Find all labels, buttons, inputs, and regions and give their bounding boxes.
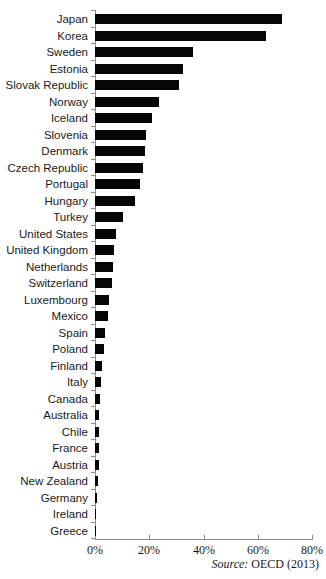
x-tick-label: 80% [301,543,323,558]
y-axis-tick [91,109,95,110]
y-axis-tick [91,60,95,61]
y-axis-tick [91,274,95,275]
bar [95,80,179,90]
y-axis-tick [91,241,95,242]
bar [95,97,159,107]
x-tick-label: 0% [87,543,103,558]
country-label: Slovenia [0,127,88,144]
bar-row: Iceland [0,110,326,127]
country-label: Switzerland [0,275,88,292]
x-axis-tick [204,535,205,539]
bar [95,212,123,222]
bar-row: Slovak Republic [0,77,326,94]
bar-row: Ireland [0,506,326,523]
bar [95,31,266,41]
country-label: New Zealand [0,473,88,490]
y-axis-tick [91,76,95,77]
bar-row: Slovenia [0,127,326,144]
country-label: Spain [0,325,88,342]
source-text: OECD (2013) [251,557,319,571]
country-label: Netherlands [0,259,88,276]
y-axis-tick [91,27,95,28]
bar-row: Poland [0,341,326,358]
y-axis-tick [91,307,95,308]
country-label: Iceland [0,110,88,127]
bar [95,295,109,305]
bar [95,245,114,255]
bar-row: United Kingdom [0,242,326,259]
bar-row: Norway [0,94,326,111]
source-note: Source: OECD (2013) [211,557,319,572]
y-axis-tick [91,373,95,374]
y-axis-tick [91,175,95,176]
bar [95,328,105,338]
y-axis-tick [91,390,95,391]
x-axis-tick [149,535,150,539]
bar-row: Australia [0,407,326,424]
country-label: Finland [0,358,88,375]
x-tick-label: 60% [247,543,269,558]
bar-row: Denmark [0,143,326,160]
country-label: Estonia [0,61,88,78]
y-axis-tick [91,340,95,341]
bar-row: New Zealand [0,473,326,490]
bar-row: Sweden [0,44,326,61]
bar [95,179,140,189]
y-axis-tick [91,43,95,44]
country-label: Turkey [0,209,88,226]
country-label: Czech Republic [0,160,88,177]
bar [95,278,112,288]
country-label: Chile [0,424,88,441]
bar [95,47,193,57]
y-axis-tick [91,324,95,325]
y-axis-tick [91,10,95,11]
bar-row: Czech Republic [0,160,326,177]
x-axis-tick [312,535,313,539]
bar [95,460,99,470]
bar-row: Netherlands [0,259,326,276]
bar [95,113,152,123]
bar [95,130,146,140]
y-axis-tick [91,126,95,127]
bar [95,196,135,206]
bar [95,377,101,387]
y-axis-tick [91,225,95,226]
y-axis-tick [91,258,95,259]
y-axis-tick [91,142,95,143]
country-label: Denmark [0,143,88,160]
bar [95,410,99,420]
y-axis-tick [91,406,95,407]
y-axis-tick [91,439,95,440]
bar [95,163,143,173]
country-label: France [0,440,88,457]
x-tick-label: 20% [138,543,160,558]
country-label: Luxembourg [0,292,88,309]
x-tick-label: 40% [193,543,215,558]
bar-row: Austria [0,457,326,474]
country-label: Korea [0,28,88,45]
country-label: Australia [0,407,88,424]
y-axis-tick [91,208,95,209]
bar [95,311,108,321]
bar [95,427,99,437]
x-axis-tick [258,535,259,539]
y-axis-tick [91,357,95,358]
bar-row: Luxembourg [0,292,326,309]
bar-row: United States [0,226,326,243]
bar [95,476,98,486]
bar-row: Portugal [0,176,326,193]
country-label: Sweden [0,44,88,61]
bar-row: Mexico [0,308,326,325]
country-label: Italy [0,374,88,391]
bar-row: Greece [0,523,326,540]
y-axis-tick [91,291,95,292]
bar-row: Finland [0,358,326,375]
country-label: Portugal [0,176,88,193]
y-axis-tick [91,505,95,506]
country-label: Mexico [0,308,88,325]
bar-chart: JapanKoreaSwedenEstoniaSlovak RepublicNo… [0,0,326,579]
bar-row: Spain [0,325,326,342]
y-axis-tick [91,159,95,160]
country-label: Poland [0,341,88,358]
bar-row: Korea [0,28,326,45]
